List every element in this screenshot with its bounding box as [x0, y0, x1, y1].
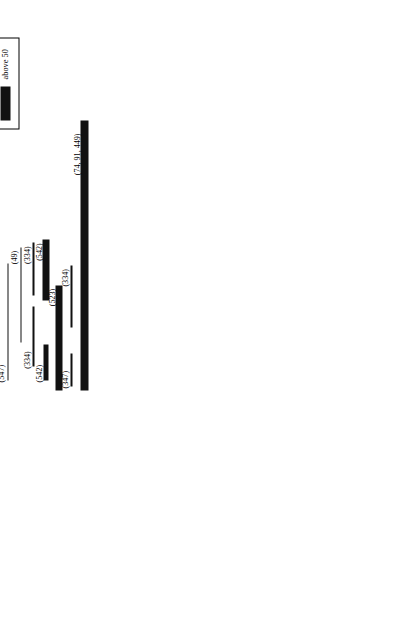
legend-box: No. of sequences 1-1011-2021-3031-4041-5… [0, 37, 20, 129]
coverage-bar [71, 265, 72, 327]
coverage-bar-label: (523) [47, 288, 56, 306]
legend-label: above 50 [1, 49, 10, 79]
coverage-bar-label: (542) [35, 364, 44, 382]
coverage-bar [44, 344, 49, 380]
legend-item: above 50 [0, 46, 10, 120]
coverage-bar-label: (334) [22, 351, 31, 369]
coverage-bar [33, 306, 34, 367]
coverage-bar-label: (542) [35, 243, 44, 261]
figure-canvas: 01K2K3K4K5K6K7K 18SITS15.8SITS228SD1D2D3… [0, 0, 89, 429]
coverage-bar [8, 263, 9, 380]
coverage-bar [71, 353, 72, 386]
figure-stage: 01K2K3K4K5K6K7K 18SITS15.8SITS228SD1D2D3… [0, 0, 89, 429]
coverage-bar-label: (74, 91, 449) [73, 133, 82, 175]
coverage-bar-label: (334) [60, 269, 69, 287]
coverage-bar-label: (547) [0, 364, 6, 382]
coverage-bar-label: (334) [22, 246, 31, 264]
coverage-bar-label: (49) [9, 250, 18, 263]
legend-rows: 1-1011-2021-3031-4041-50above 50 [0, 46, 10, 120]
legend-swatch [0, 86, 10, 120]
coverage-bar-label: (347) [60, 370, 69, 388]
